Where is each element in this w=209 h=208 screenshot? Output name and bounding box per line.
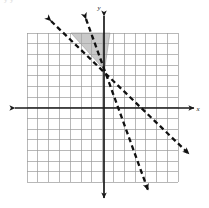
graph-figure: y y [0,0,209,208]
y-axis-label: y [96,4,101,12]
x-axis-label: x [195,105,200,113]
coordinate-plane-svg: x y [0,0,209,208]
